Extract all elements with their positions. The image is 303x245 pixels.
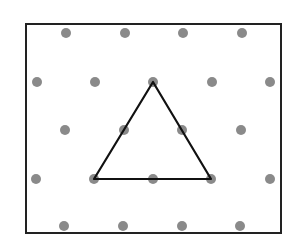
- grid-dot: [61, 28, 71, 38]
- grid-dot: [118, 221, 128, 231]
- grid-dot: [265, 77, 275, 87]
- grid-dot: [59, 221, 69, 231]
- grid-dot: [60, 125, 70, 135]
- grid-dot: [177, 221, 187, 231]
- grid-dot: [32, 77, 42, 87]
- dot-grid-diagram: [0, 0, 303, 245]
- dot-grid: [31, 28, 275, 231]
- grid-dot: [31, 174, 41, 184]
- grid-dot: [237, 28, 247, 38]
- grid-dot: [207, 77, 217, 87]
- grid-dot: [90, 77, 100, 87]
- grid-dot: [178, 28, 188, 38]
- grid-dot: [236, 125, 246, 135]
- grid-dot: [235, 221, 245, 231]
- triangle-shape: [94, 82, 211, 179]
- grid-dot: [120, 28, 130, 38]
- grid-dot: [265, 174, 275, 184]
